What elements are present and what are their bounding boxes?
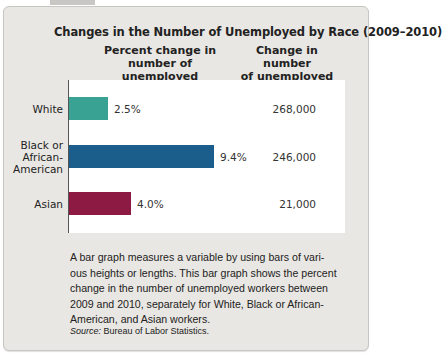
source-label: Source: [70,326,101,336]
source-text: Bureau of Labor Statistics. [101,326,209,336]
column-header-percent: Percent change in number of unemployed [100,44,220,83]
number-label-asian: 21,000 [279,198,316,210]
source-note: Source: Bureau of Labor Statistics. [70,326,209,336]
number-label-white: 268,000 [273,103,316,115]
figure-caption: A bar graph measures a variable by using… [70,250,340,328]
percent-label-white: 2.5% [114,103,141,115]
category-label-white: White [32,103,63,115]
bar-asian [69,192,131,215]
category-label-black: Black or African- American [13,139,63,175]
column-header-number: Change in number of unemployed [237,44,337,83]
header-tab [50,0,95,5]
percent-label-black: 9.4% [220,151,247,163]
chart-title: Changes in the Number of Unemployed by R… [54,25,442,39]
percent-label-asian: 4.0% [137,198,164,210]
bar-white [69,97,108,120]
category-label-asian: Asian [34,198,63,210]
number-label-black: 246,000 [273,151,316,163]
bar-black [69,145,214,168]
